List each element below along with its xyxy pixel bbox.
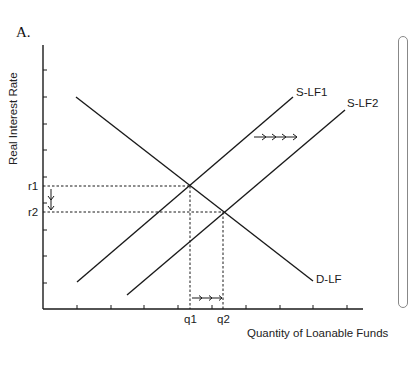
supply-curve-1 xyxy=(77,97,293,282)
demand-curve-label: D-LF xyxy=(316,273,342,285)
q1-tick-label: q1 xyxy=(184,313,197,325)
demand-curve xyxy=(76,97,313,281)
r1-tick-label: r1 xyxy=(28,180,38,192)
q2-tick-label: q2 xyxy=(217,313,230,325)
supply-curve-2-label: S-LF2 xyxy=(347,97,378,109)
r2-tick-label: r2 xyxy=(28,206,38,218)
curves xyxy=(76,97,345,295)
rate-change-arrow xyxy=(48,189,54,210)
supply-shift-arrows xyxy=(254,134,297,140)
quantity-change-arrows xyxy=(192,296,222,301)
supply-curve-2 xyxy=(127,110,345,295)
supply-curve-1-label: S-LF1 xyxy=(296,86,327,98)
